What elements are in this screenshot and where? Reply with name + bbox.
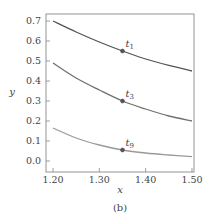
y-tick-label: 0.4 [26,75,41,86]
line-chart: t1t3t9 1.201.301.401.50 0.00.10.20.30.40… [0,0,211,216]
series-line-t1 [53,21,192,71]
y-tick-label: 0.0 [26,155,41,166]
annotation-t9: t9 [125,137,133,150]
y-tick-label: 0.2 [26,115,41,126]
marker-t9 [120,148,124,152]
axes-frame [46,14,194,172]
annotation-t3: t3 [125,88,133,101]
x-tick-label: 1.50 [181,174,202,185]
series-line-t3 [53,63,192,121]
y-tick-label: 0.3 [26,95,41,106]
y-axis-label: y [8,86,15,97]
marker-t1 [120,49,124,53]
annotation-t1: t1 [125,38,133,51]
y-tick-label: 0.6 [26,35,41,46]
series-line-t9 [53,128,192,157]
x-tick-label: 1.20 [42,174,63,185]
marker-t3 [120,99,124,103]
x-axis-label: x [117,184,123,195]
x-tick-label: 1.30 [89,174,110,185]
y-tick-label: 0.5 [26,55,41,66]
y-tick-label: 0.1 [26,135,41,146]
y-tick-label: 0.7 [26,15,41,26]
x-tick-label: 1.40 [135,174,156,185]
plot-area: t1t3t9 [53,21,192,157]
figure-caption: (b) [113,202,127,213]
x-axis-ticks: 1.201.301.401.50 [42,168,202,185]
